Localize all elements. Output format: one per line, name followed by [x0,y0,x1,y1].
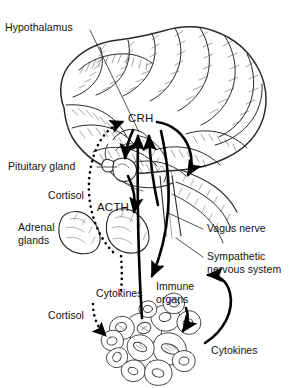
label-crh: CRH [128,112,154,125]
leader-vagus [168,213,203,229]
label-immune-organs-line1: Immune [156,280,194,293]
label-pituitary-gland: Pituitary gland [8,160,75,173]
label-hypothalamus: Hypothalamus [5,21,73,34]
label-adrenal-glands-line1: Adrenal [18,221,55,234]
label-sympathetic-line2: nervous system [207,263,281,276]
label-vagus-nerve: Vagus nerve [207,222,266,235]
label-sympathetic-line1: Sympathetic [207,250,265,263]
label-cytokines-right: Cytokines [211,344,258,357]
label-immune-organs-line2: organs [156,293,188,306]
pituitary-gland-illustration [102,158,137,181]
label-adrenal-glands-line2: glands [18,234,49,247]
neuroimmune-diagram: Hypothalamus CRH Pituitary gland Cortiso… [0,0,299,388]
label-acth: ACTH [97,201,129,214]
leader-sympathetic [176,238,203,257]
arrow-cortisol-to-immune-cells [93,304,105,335]
label-cytokines-left: Cytokines [96,287,143,300]
arrow-cytokines-from-cells [205,275,231,343]
label-cortisol-upper: Cortisol [48,189,84,202]
label-cortisol-lower: Cortisol [48,309,84,322]
diagram-artwork [0,0,299,388]
adrenal-gland-right-illustration [106,209,149,253]
brain-illustration [61,27,266,243]
